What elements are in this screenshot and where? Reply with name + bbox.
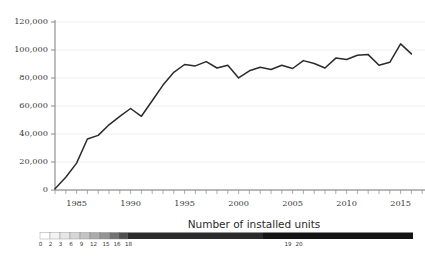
y-tick-label-0: 0 xyxy=(43,184,48,194)
line-chart-svg: 120,000 100,000 80,000 60,000 40,000 20,… xyxy=(0,0,425,258)
y-tick-marks xyxy=(51,22,55,190)
y-tick-label-40000: 40,000 xyxy=(19,128,48,138)
chart-figure: 120,000 100,000 80,000 60,000 40,000 20,… xyxy=(0,0,425,258)
colorbar-tick-label-2: 2 xyxy=(49,241,53,247)
y-tick-label-80000: 80,000 xyxy=(19,72,48,82)
colorbar-title: Number of installed units xyxy=(188,218,321,230)
colorbar-tick-label-18: 18 xyxy=(125,241,133,247)
y-tick-label-120000: 120,000 xyxy=(14,16,48,26)
y-tick-label-60000: 60,000 xyxy=(19,100,48,110)
colorbar-tick-label-19: 19 xyxy=(284,241,292,247)
data-line-installed-units xyxy=(55,44,411,189)
y-tick-label-20000: 20,000 xyxy=(19,156,48,166)
colorbar-tick-label-16: 16 xyxy=(113,241,121,247)
x-tick-marks xyxy=(55,190,422,194)
x-tick-label-2005: 2005 xyxy=(282,198,303,208)
colorbar xyxy=(40,233,413,240)
x-tick-label-2010: 2010 xyxy=(336,198,357,208)
colorbar-tick-label-9: 9 xyxy=(80,241,84,247)
colorbar-tick-label-20: 20 xyxy=(295,241,303,247)
colorbar-tick-label-0: 0 xyxy=(39,241,43,247)
gridlines xyxy=(55,22,425,190)
colorbar-tick-label-12: 12 xyxy=(90,241,97,247)
y-tick-label-100000: 100,000 xyxy=(14,44,48,54)
x-tick-label-2000: 2000 xyxy=(228,198,249,208)
colorbar-tick-label-3: 3 xyxy=(59,241,63,247)
x-tick-label-1995: 1995 xyxy=(174,198,195,208)
x-tick-label-1985: 1985 xyxy=(66,198,87,208)
x-tick-label-2015: 2015 xyxy=(390,198,411,208)
colorbar-tick-label-15: 15 xyxy=(102,241,110,247)
x-tick-label-1990: 1990 xyxy=(120,198,141,208)
colorbar-tick-label-6: 6 xyxy=(69,241,73,247)
